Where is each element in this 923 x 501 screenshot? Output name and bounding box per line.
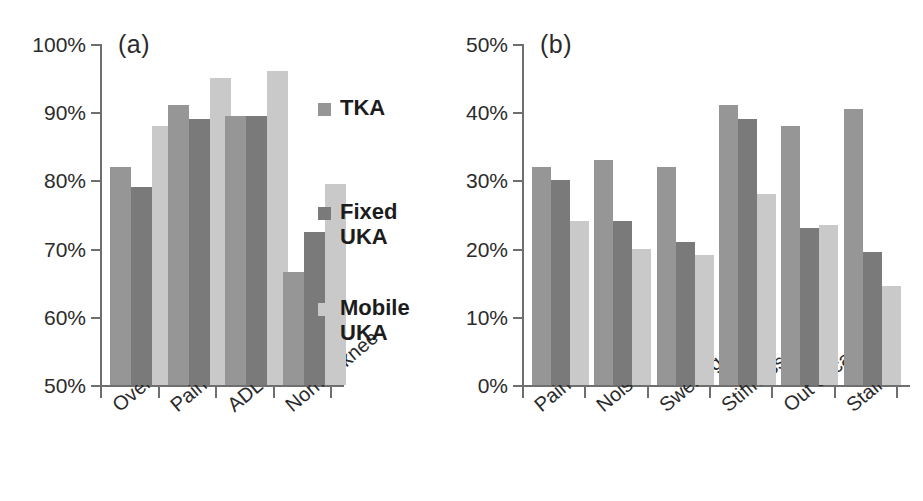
bar — [570, 221, 589, 385]
bar — [676, 242, 695, 385]
bar — [757, 194, 776, 385]
x-tick-mark — [273, 387, 275, 398]
bar-group — [594, 44, 651, 385]
y-tick-mark — [91, 44, 100, 46]
panel-a-plot-area — [100, 44, 330, 385]
x-tick-mark — [100, 387, 102, 398]
x-tick-mark — [896, 387, 898, 398]
y-tick-label: 30% — [466, 169, 508, 193]
legend-swatch-icon — [318, 103, 331, 116]
bar — [246, 116, 267, 385]
legend-item-mobile-uka: Mobile UKA — [318, 296, 410, 345]
x-tick-mark — [647, 387, 649, 398]
bar — [719, 105, 738, 385]
bar — [613, 221, 632, 385]
y-tick-mark — [91, 249, 100, 251]
figure-container: (a) 100%90%80%70%60%50% OverallPainADLNo… — [0, 0, 923, 501]
bar-group — [110, 44, 173, 385]
legend-item-fixed-uka: Fixed UKA — [318, 200, 397, 249]
bar — [594, 160, 613, 385]
y-tick-mark — [513, 180, 522, 182]
bar — [189, 119, 210, 385]
bar-group — [719, 44, 776, 385]
y-tick-label: 100% — [32, 33, 86, 57]
bar — [283, 272, 304, 385]
bar-group — [532, 44, 589, 385]
x-tick-mark — [584, 387, 586, 398]
y-tick-label: 70% — [44, 238, 86, 262]
x-tick-mark — [834, 387, 836, 398]
bar-group — [225, 44, 288, 385]
legend-label: Fixed UKA — [340, 200, 397, 249]
y-tick-mark — [91, 317, 100, 319]
y-tick-label: 10% — [466, 306, 508, 330]
bar — [110, 167, 131, 385]
legend-label: TKA — [340, 96, 385, 121]
y-tick-mark — [91, 112, 100, 114]
bar — [844, 109, 863, 385]
bar-group — [781, 44, 838, 385]
panel-b-plot-area — [522, 44, 896, 385]
legend-swatch-icon — [318, 303, 331, 316]
y-tick-label: 0% — [478, 374, 508, 398]
y-tick-mark — [513, 112, 522, 114]
bar — [657, 167, 676, 385]
x-tick-mark — [522, 387, 524, 398]
y-tick-label: 60% — [44, 306, 86, 330]
x-tick-mark — [771, 387, 773, 398]
bar — [551, 180, 570, 385]
bar-group — [657, 44, 714, 385]
x-tick-mark — [330, 387, 332, 398]
bar — [131, 187, 152, 385]
chart-panel-b: (b) 50%40%30%20%10%0% PainNoiseSwellingS… — [462, 0, 923, 501]
x-tick-mark — [709, 387, 711, 398]
y-tick-mark — [513, 44, 522, 46]
bar — [225, 116, 246, 385]
y-tick-label: 90% — [44, 101, 86, 125]
legend-item-tka: TKA — [318, 96, 385, 121]
y-tick-label: 50% — [466, 33, 508, 57]
x-tick-mark — [215, 387, 217, 398]
legend-swatch-icon — [318, 207, 331, 220]
y-tick-label: 50% — [44, 374, 86, 398]
bar — [695, 255, 714, 385]
bar — [781, 126, 800, 385]
y-tick-label: 40% — [466, 101, 508, 125]
bar — [819, 225, 838, 385]
bar — [632, 249, 651, 385]
chart-panel-a: (a) 100%90%80%70%60%50% OverallPainADLNo… — [0, 0, 462, 501]
legend-label: Mobile UKA — [340, 296, 410, 345]
y-tick-mark — [91, 385, 100, 387]
bar — [882, 286, 901, 385]
y-tick-mark — [91, 180, 100, 182]
y-tick-label: 80% — [44, 169, 86, 193]
bar — [168, 105, 189, 385]
y-tick-mark — [513, 249, 522, 251]
bar — [863, 252, 882, 385]
bar-group — [844, 44, 901, 385]
y-tick-label: 20% — [466, 238, 508, 262]
bar — [800, 228, 819, 385]
y-tick-mark — [513, 385, 522, 387]
y-tick-mark — [513, 317, 522, 319]
bar — [532, 167, 551, 385]
bar — [738, 119, 757, 385]
bar-group — [168, 44, 231, 385]
x-tick-mark — [158, 387, 160, 398]
panel-b-x-axis — [522, 385, 910, 387]
